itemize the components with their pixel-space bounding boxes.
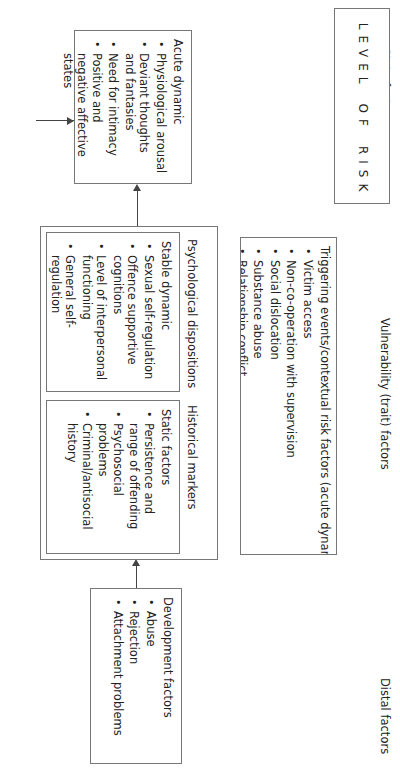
list-item: Relationship conflict	[240, 246, 249, 548]
risk-letter: S	[356, 170, 370, 178]
risk-letter: L	[356, 23, 370, 30]
trigger-events-box: Triggering events/contextual risk factor…	[240, 237, 337, 555]
header-distal: Distal factors	[378, 678, 392, 754]
risk-letter: V	[356, 49, 370, 57]
list-item: Substance abuse	[251, 246, 266, 548]
risk-letter: I	[356, 160, 370, 164]
arrow-vulnerability-to-state	[137, 190, 138, 226]
list-item: General self-regulation	[49, 241, 78, 383]
list-item: Physiological arousal	[154, 39, 169, 175]
psychological-stable-box: Stable dynamic Sexual self-regulation Of…	[46, 232, 180, 392]
acute-dynamic-title: Acute dynamic	[170, 39, 185, 175]
static-factors-title: Static factors	[158, 409, 173, 545]
list-item: Psychosocial problems	[96, 409, 125, 545]
list-item: Deviant thoughts and fantasies	[123, 39, 152, 175]
historical-heading: Historical markers	[184, 405, 199, 510]
list-item: Attachment problems	[111, 597, 126, 755]
list-item: Victim access	[301, 246, 316, 548]
list-item: Persistence and range of offending	[127, 409, 156, 545]
risk-letter: E	[356, 35, 370, 43]
trigger-list: Victim access Non-co-operation with supe…	[240, 246, 315, 548]
arrowhead-icon	[133, 184, 141, 191]
list-item: Abuse	[144, 597, 159, 755]
list-item: Level of interpersonal functioning	[80, 241, 109, 383]
risk-letter: E	[356, 63, 370, 71]
risk-letter: L	[356, 77, 370, 84]
risk-letter: F	[356, 119, 370, 126]
level-of-risk-box: L E V E L O F R I S K	[334, 8, 390, 204]
list-item: Criminal/antisocial history	[65, 409, 94, 545]
list-item: Social dislocation	[268, 246, 283, 548]
risk-letter: O	[356, 104, 370, 113]
header-vulnerability: Vulnerability (trait) factors	[378, 318, 392, 470]
trigger-title: Triggering events/contextual risk factor…	[317, 246, 332, 548]
state-acute-box: Acute dynamic Physiological arousal Devi…	[74, 30, 192, 184]
acute-dynamic-list: Physiological arousal Deviant thoughts a…	[61, 39, 169, 175]
stable-dynamic-title: Stable dynamic	[158, 241, 173, 383]
list-item: Rejection	[127, 597, 142, 755]
level-of-risk-label: L E V E L O F R I S K	[335, 9, 391, 205]
static-factors-list: Persistence and range of offending Psych…	[65, 409, 156, 545]
distal-development-box: Development factors Abuse Rejection Atta…	[90, 588, 182, 764]
list-item: Offence supportive cognitions	[111, 241, 140, 383]
list-item: Sexual self-regulation	[142, 241, 157, 383]
development-list: Abuse Rejection Attachment problems	[111, 597, 159, 755]
arrowhead-icon	[132, 559, 140, 566]
list-item: Need for intimacy	[106, 39, 121, 175]
risk-letter: R	[356, 146, 370, 154]
arrowhead-icon	[67, 117, 74, 125]
list-item: Non-co-operation with supervision	[284, 246, 299, 548]
development-title: Development factors	[160, 597, 175, 755]
arrow-distal-to-vulnerability	[136, 565, 137, 588]
psychological-heading: Psychological dispositions	[184, 239, 199, 388]
list-item: Positive and negative affective states	[61, 39, 105, 175]
risk-letter: K	[356, 183, 370, 191]
stable-dynamic-list: Sexual self-regulation Offence supportiv…	[49, 241, 157, 383]
historical-static-box: Static factors Persistence and range of …	[46, 400, 180, 554]
